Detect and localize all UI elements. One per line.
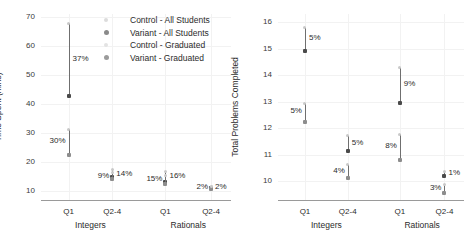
- control-data-point: [443, 170, 446, 173]
- x-axis-tick-label: Q2-4: [191, 207, 231, 216]
- percent-label: 16%: [169, 171, 185, 180]
- figure-root: Time Spent (mins) Control - All Students…: [0, 0, 471, 247]
- x-axis-tick-label: Q1: [285, 207, 325, 216]
- y-axis-tick-label: 50: [7, 70, 35, 79]
- chart-panel-problems-completed: Total Problems Completed 101112131415165…: [236, 0, 471, 247]
- x-axis-tick-label: Q1: [49, 207, 89, 216]
- y-axis-title-time-spent: Time Spent (mins): [0, 72, 3, 141]
- y-axis-tick-label: 16: [244, 17, 272, 26]
- error-bar: [400, 134, 401, 160]
- legend-item-label: Control - All Students: [130, 14, 210, 27]
- percent-label: 8%: [376, 141, 397, 150]
- data-point: [67, 94, 71, 98]
- x-axis-group-label: Rationals: [382, 220, 462, 230]
- control-graduated-dot-icon: [104, 43, 108, 47]
- y-axis-tick-label: 15: [244, 44, 272, 53]
- data-point: [442, 174, 446, 178]
- percent-label: 9%: [404, 79, 416, 88]
- y-axis-title-problems-completed: Total Problems Completed: [230, 57, 240, 157]
- data-point: [398, 101, 402, 105]
- x-axis-group-label: Integers: [50, 220, 130, 230]
- error-bar: [69, 129, 70, 155]
- control-data-point: [303, 26, 306, 29]
- percent-label: 37%: [73, 54, 89, 63]
- control-data-point: [443, 183, 446, 186]
- y-axis-tick-label: 10: [7, 186, 35, 195]
- variant-all-dot-icon: [104, 30, 109, 35]
- control-data-point: [164, 170, 167, 173]
- x-axis-line: [278, 200, 464, 201]
- legend-item-label: Variant - All Students: [130, 27, 209, 40]
- x-axis-tick-label: Q1: [380, 207, 420, 216]
- x-axis-tick-label: Q2-4: [328, 207, 368, 216]
- percent-label: 30%: [45, 136, 66, 145]
- error-bar: [305, 103, 306, 122]
- y-axis-tick-label: 40: [7, 99, 35, 108]
- percent-label: 15%: [141, 174, 162, 183]
- percent-label: 5%: [352, 138, 364, 147]
- percent-label: 1%: [448, 168, 460, 177]
- chart-panel-time-spent: Time Spent (mins) Control - All Students…: [0, 0, 236, 247]
- error-bar: [400, 68, 401, 103]
- x-axis-line: [41, 200, 231, 201]
- y-axis-tick-label: 12: [244, 123, 272, 132]
- x-gridline: [400, 14, 401, 200]
- control-data-point: [164, 174, 167, 177]
- y-axis-tick-label: 13: [244, 97, 272, 106]
- plot-area-problems-completed: [278, 14, 464, 200]
- x-axis-group-label: Rationals: [148, 220, 228, 230]
- y-axis-tick-label: 60: [7, 41, 35, 50]
- percent-label: 2%: [187, 182, 208, 191]
- data-point: [303, 49, 307, 53]
- data-point: [398, 158, 402, 162]
- legend-item-label: Variant - Graduated: [130, 52, 204, 65]
- percent-label: 14%: [116, 169, 132, 178]
- percent-label: 3%: [420, 183, 441, 192]
- y-axis-tick-label: 20: [7, 157, 35, 166]
- y-axis-tick-label: 70: [7, 12, 35, 21]
- y-axis-tick-label: 10: [244, 176, 272, 185]
- y-axis-tick-label: 11: [244, 150, 272, 159]
- percent-label: 5%: [281, 106, 302, 115]
- control-all-dot-icon: [104, 18, 108, 22]
- x-axis-tick-label: Q2-4: [92, 207, 132, 216]
- control-data-point: [67, 22, 70, 25]
- data-point: [442, 191, 446, 195]
- y-axis-tick-label: 14: [244, 70, 272, 79]
- variant-graduated-dot-icon: [104, 55, 109, 60]
- control-data-point: [67, 128, 70, 131]
- error-bar: [305, 28, 306, 51]
- x-axis-tick-label: Q1: [145, 207, 185, 216]
- x-axis-tick-label: Q2-4: [424, 207, 464, 216]
- data-point: [67, 153, 71, 157]
- data-point: [346, 176, 350, 180]
- data-point: [346, 149, 350, 153]
- x-axis-group-label: Integers: [286, 220, 366, 230]
- data-point: [303, 120, 307, 124]
- y-axis-tick-label: 30: [7, 128, 35, 137]
- percent-label: 2%: [215, 182, 227, 191]
- data-point: [110, 177, 114, 181]
- error-bar: [69, 23, 70, 96]
- percent-label: 4%: [324, 166, 345, 175]
- percent-label: 9%: [88, 171, 109, 180]
- data-point: [163, 182, 167, 186]
- percent-label: 5%: [309, 33, 321, 42]
- x-gridline: [211, 14, 212, 200]
- legend-item-label: Control - Graduated: [130, 39, 205, 52]
- control-data-point: [111, 171, 114, 174]
